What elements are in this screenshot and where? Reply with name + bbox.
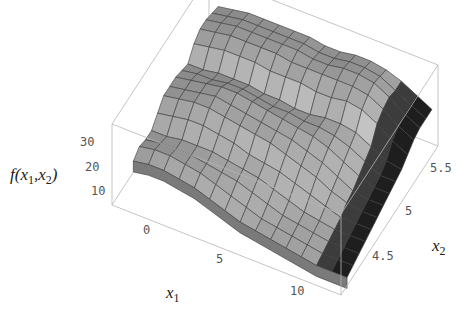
z-tick-10: 10 xyxy=(91,184,105,198)
z-tick-20: 20 xyxy=(85,160,99,174)
surface-plot xyxy=(0,0,464,312)
x-tick-10: 10 xyxy=(290,284,304,298)
z-tick-30: 30 xyxy=(80,135,94,149)
x-tick-5: 5 xyxy=(216,252,223,266)
y-tick-5.5: 5.5 xyxy=(430,161,452,175)
x-axis-label: x1 xyxy=(166,283,180,306)
y-axis-label: x2 xyxy=(432,236,446,259)
y-tick-4.5: 4.5 xyxy=(372,249,394,263)
z-axis-label: f(x1,x2) xyxy=(10,165,57,188)
x-tick-0: 0 xyxy=(143,223,150,237)
y-tick-5: 5 xyxy=(405,204,412,218)
